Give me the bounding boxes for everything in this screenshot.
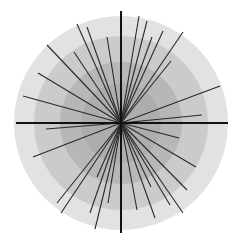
radial-diagram: [0, 0, 242, 248]
radial-burst-svg: [0, 0, 242, 248]
